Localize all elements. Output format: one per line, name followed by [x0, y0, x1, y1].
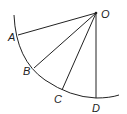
- label-D: D: [92, 102, 100, 114]
- label-A: A: [7, 31, 15, 43]
- arc: [14, 15, 119, 98]
- point-O-dot: [95, 12, 98, 15]
- geometry-diagram: O A B C D: [0, 0, 127, 114]
- label-O: O: [101, 8, 110, 20]
- segment-OC: [62, 13, 96, 90]
- label-C: C: [54, 93, 62, 105]
- label-B: B: [23, 65, 30, 77]
